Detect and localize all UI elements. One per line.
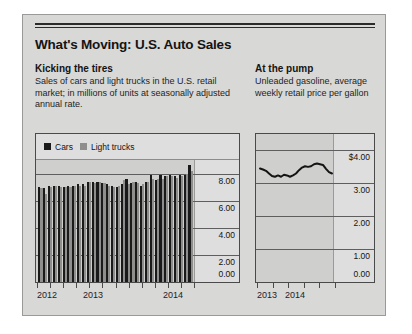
header-rules <box>35 23 375 28</box>
bar-group <box>188 160 193 282</box>
x-tick <box>181 283 182 288</box>
bar-chart-x-ticks <box>37 283 240 288</box>
right-description: Unleaded gasoline, average weekly retail… <box>255 76 375 99</box>
x-tick <box>273 283 274 288</box>
line-xtick-label-2014: 2014 <box>285 290 305 300</box>
x-tick <box>116 283 117 288</box>
infographic-panel: What's Moving: U.S. Auto Sales Kicking t… <box>22 14 386 316</box>
line-chart-x-ticks <box>257 283 375 288</box>
x-tick <box>142 283 143 288</box>
bar-chart: 0.002.004.006.008.00 Cars Light trucks <box>35 133 240 283</box>
right-column: At the pump Unleaded gasoline, average w… <box>255 63 375 99</box>
legend-item-light-trucks: Light trucks <box>80 142 134 152</box>
x-tick <box>50 283 51 288</box>
left-subhead: Kicking the tires <box>35 63 240 74</box>
left-description: Sales of cars and light trucks in the U.… <box>35 76 240 111</box>
bar-chart-ytick-2.00: 2.00 <box>218 257 235 268</box>
bar-chart-ytick-0.00: 0.00 <box>218 269 235 280</box>
bar-xtick-label-2014: 2014 <box>163 290 183 300</box>
x-tick <box>168 283 169 288</box>
x-tick <box>102 283 103 288</box>
x-tick <box>335 283 336 288</box>
x-tick <box>155 283 156 288</box>
bar-chart-ytick-8.00: 8.00 <box>218 176 235 187</box>
line-chart: $4.003.002.001.000.00 <box>255 133 375 283</box>
legend-swatch-cars <box>44 143 51 150</box>
legend-label-cars: Cars <box>55 142 73 152</box>
x-tick <box>37 283 38 288</box>
legend-label-light-trucks: Light trucks <box>91 142 134 152</box>
x-tick <box>288 283 289 288</box>
bar-chart-bars <box>38 160 193 282</box>
line-xtick-label-2013: 2013 <box>257 290 277 300</box>
bar-chart-ytick-6.00: 6.00 <box>218 203 235 214</box>
bar-chart-ytick-4.00: 4.00 <box>218 230 235 241</box>
bar-light-trucks <box>191 171 193 282</box>
x-tick <box>304 283 305 288</box>
line-chart-series <box>256 134 374 282</box>
legend-item-cars: Cars <box>44 142 73 152</box>
x-tick <box>194 283 195 288</box>
x-tick <box>89 283 90 288</box>
x-tick <box>129 283 130 288</box>
bar-xtick-label-2012: 2012 <box>37 290 57 300</box>
left-column: Kicking the tires Sales of cars and ligh… <box>35 63 240 111</box>
bar-chart-x-axis: 2012 2013 2014 <box>35 283 240 305</box>
page-title: What's Moving: U.S. Auto Sales <box>35 37 375 52</box>
right-subhead: At the pump <box>255 63 375 74</box>
line-chart-x-axis: 2013 2014 <box>255 283 375 305</box>
header-rule-thin <box>35 27 375 28</box>
x-tick <box>319 283 320 288</box>
x-tick <box>257 283 258 288</box>
x-tick <box>76 283 77 288</box>
bar-xtick-label-2013: 2013 <box>83 290 103 300</box>
x-tick <box>63 283 64 288</box>
legend-swatch-light-trucks <box>80 143 87 150</box>
bar-chart-legend: Cars Light trucks <box>36 134 239 160</box>
